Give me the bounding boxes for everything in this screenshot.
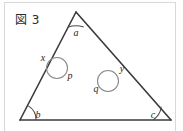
right-angle-circle [98,71,119,92]
left-angle-circle [47,58,68,79]
figure-card: a b c x p y q 図 3 [0,0,183,131]
label-right-circle-q: q [94,83,99,94]
label-bottom-right-angle-c: c [151,109,156,120]
figure-caption: 図 3 [15,10,40,27]
label-bottom-left-angle-b: b [36,109,41,120]
label-left-circle-x: x [40,52,46,63]
label-left-circle-p: p [67,70,73,81]
label-apex-angle-a: a [74,27,79,38]
label-right-circle-y: y [119,63,125,74]
